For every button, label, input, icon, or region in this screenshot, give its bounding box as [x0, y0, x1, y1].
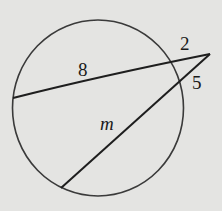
- label-2: 2: [180, 34, 190, 53]
- circle: [13, 20, 184, 196]
- label-m: m: [100, 114, 114, 133]
- secant-line-1: [13, 54, 210, 98]
- label-8: 8: [78, 60, 88, 79]
- diagram-canvas: [0, 0, 222, 211]
- label-5: 5: [192, 73, 202, 92]
